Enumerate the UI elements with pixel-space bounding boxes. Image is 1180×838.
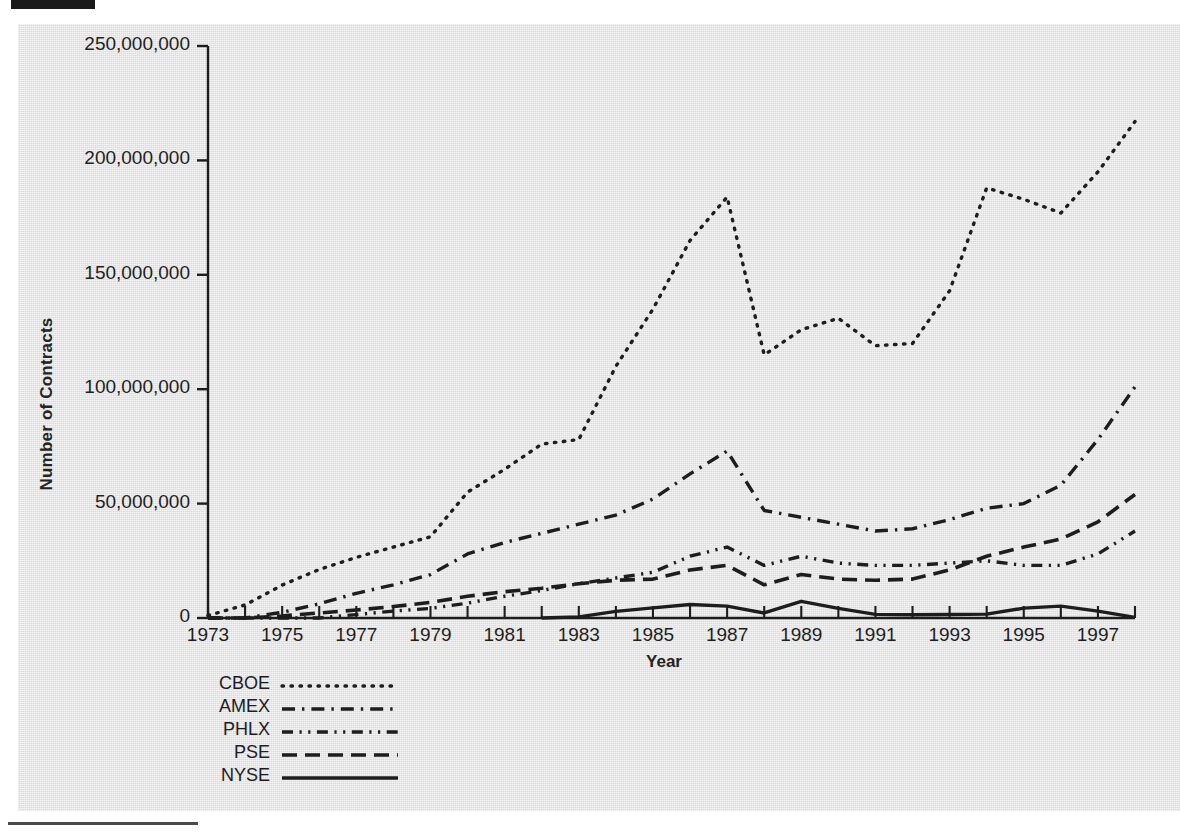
legend-line-swatch-dash-dot [280,698,400,716]
x-tick-label: 1989 [761,624,841,646]
legend-item-pse: PSE [196,741,496,764]
chart-plot-area: 050,000,000100,000,000150,000,000200,000… [18,24,1180,811]
y-tick-label: 250,000,000 [18,33,190,55]
legend-line-swatch-dashed [280,744,400,762]
series-line-amex [208,387,1135,618]
x-tick-label: 1973 [168,624,248,646]
line-chart-canvas [18,24,1180,811]
legend-line-swatch-solid [280,767,400,785]
x-axis-title: Year [18,652,1180,672]
chart-legend: CBOEAMEXPHLXPSENYSE [196,672,496,787]
legend-label: PSE [196,742,280,763]
scan-artifact-mark [11,0,95,9]
x-tick-label: 1977 [316,624,396,646]
y-tick-label: 0 [18,605,190,627]
y-axis-title: Number of Contracts [37,289,57,519]
legend-line-swatch-dash-dot-dot [280,721,400,739]
x-tick-label: 1991 [835,624,915,646]
x-tick-label: 1993 [910,624,990,646]
x-tick-label: 1981 [465,624,545,646]
legend-line-swatch-dotted [280,675,400,693]
legend-item-cboe: CBOE [196,672,496,695]
series-line-cboe [208,122,1135,616]
chart-figure-panel: 050,000,000100,000,000150,000,000200,000… [18,24,1180,811]
x-axis-title-text: Year [646,652,682,671]
legend-label: AMEX [196,696,280,717]
x-tick-label: 1997 [1058,624,1138,646]
x-tick-label: 1979 [390,624,470,646]
footer-rule [8,822,198,825]
x-tick-label: 1975 [242,624,322,646]
legend-label: NYSE [196,765,280,786]
figure-page: 050,000,000100,000,000150,000,000200,000… [0,0,1180,838]
series-line-pse [208,494,1135,618]
x-tick-label: 1987 [687,624,767,646]
x-tick-label: 1995 [984,624,1064,646]
y-tick-label: 150,000,000 [18,262,190,284]
legend-item-amex: AMEX [196,695,496,718]
y-tick-label: 200,000,000 [18,147,190,169]
legend-label: CBOE [196,673,280,694]
x-tick-label: 1985 [613,624,693,646]
legend-item-nyse: NYSE [196,764,496,787]
legend-item-phlx: PHLX [196,718,496,741]
legend-label: PHLX [196,719,280,740]
x-tick-label: 1983 [539,624,619,646]
